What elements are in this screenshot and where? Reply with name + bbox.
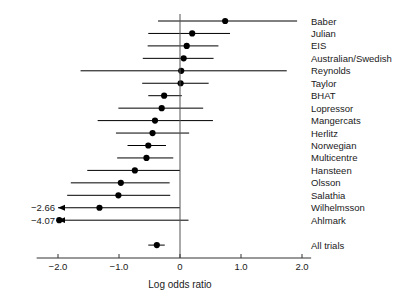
point-estimate-marker (96, 205, 102, 211)
study-row (67, 192, 170, 198)
study-label: Wilhelmsson (311, 202, 365, 213)
study-label: Herlitz (311, 128, 338, 139)
x-axis-tick-label: 0 (177, 261, 182, 272)
study-label: BHAT (311, 90, 336, 101)
study-label: Salathia (311, 190, 346, 201)
study-row (148, 93, 182, 99)
study-labels-group: BaberJulianEISAustralian/SwedishReynolds… (311, 16, 392, 251)
x-axis-tick-label: 2.0 (295, 261, 308, 272)
study-row (81, 68, 287, 74)
study-label: Lopressor (311, 103, 353, 114)
study-rows-group: −2.66−4.07 (31, 18, 297, 248)
point-estimate-marker (152, 118, 158, 124)
study-row (142, 80, 208, 86)
point-estimate-marker (145, 142, 151, 148)
point-estimate-marker (178, 80, 184, 86)
point-estimate-marker (189, 30, 195, 36)
study-label: Baber (311, 16, 336, 27)
study-label: All trials (311, 240, 345, 251)
forest-plot-canvas: −2.66−4.07 −2.0−1.001.02.0 Log odds rati… (0, 0, 414, 303)
study-row (117, 155, 173, 161)
study-row (118, 105, 203, 111)
study-row: −2.66 (31, 202, 180, 213)
study-row (148, 242, 164, 248)
study-row (116, 130, 189, 136)
ci-arrow-head-icon (58, 205, 65, 211)
study-row (148, 30, 230, 36)
point-estimate-marker (184, 43, 190, 49)
point-estimate-marker (149, 130, 155, 136)
study-label: Hansteen (311, 165, 352, 176)
study-label: EIS (311, 40, 326, 51)
point-estimate-marker (115, 192, 121, 198)
ci-out-of-range-value: −4.07 (31, 215, 55, 226)
study-row (148, 43, 219, 49)
point-estimate-marker (143, 155, 149, 161)
point-estimate-marker (161, 93, 167, 99)
study-label: Mangercats (311, 115, 361, 126)
study-row (128, 142, 166, 148)
study-label: Multicentre (311, 152, 357, 163)
point-estimate-marker (222, 18, 228, 24)
point-estimate-marker (178, 68, 184, 74)
point-estimate-marker (159, 105, 165, 111)
x-axis-tick-label: 1.0 (234, 261, 247, 272)
study-row (98, 118, 213, 124)
study-label: Reynolds (311, 65, 351, 76)
forest-plot: −2.66−4.07 −2.0−1.001.02.0 Log odds rati… (0, 0, 414, 303)
point-estimate-marker (118, 180, 124, 186)
study-label: Ahlmark (311, 215, 346, 226)
study-label: Olsson (311, 177, 341, 188)
study-row (71, 180, 170, 186)
study-label: Julian (311, 28, 336, 39)
point-estimate-marker (132, 167, 138, 173)
point-estimate-marker (154, 242, 160, 248)
x-axis-tick-label: −2.0 (49, 261, 68, 272)
study-label: Norwegian (311, 140, 356, 151)
study-row: −4.07 (31, 215, 189, 226)
point-estimate-marker (56, 217, 62, 223)
study-label: Australian/Swedish (311, 53, 392, 64)
study-row (158, 18, 297, 24)
study-row (143, 55, 214, 61)
point-estimate-marker (181, 55, 187, 61)
x-axis-tick-label: −1.0 (110, 261, 129, 272)
ci-out-of-range-value: −2.66 (31, 202, 55, 213)
x-axis-group: −2.0−1.001.02.0 (37, 254, 312, 272)
study-row (87, 167, 180, 173)
study-label: Taylor (311, 78, 336, 89)
x-axis-title: Log odds ratio (148, 279, 212, 290)
